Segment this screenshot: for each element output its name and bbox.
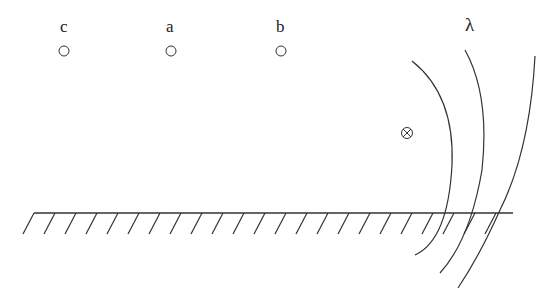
label-b: b xyxy=(276,17,285,36)
label-c: c xyxy=(60,17,68,36)
point-b-icon xyxy=(276,46,286,56)
point-c-icon xyxy=(59,46,69,56)
diagram-svg: c a b λ xyxy=(0,0,557,301)
point-a-icon xyxy=(166,46,176,56)
label-a: a xyxy=(166,17,174,36)
wavefront-1 xyxy=(412,61,452,255)
wavelength-label: λ xyxy=(465,14,475,35)
ground-hatching xyxy=(23,213,496,234)
wavefront-2 xyxy=(440,50,484,273)
source-icon xyxy=(402,128,413,139)
diagram-canvas: c a b λ xyxy=(0,0,557,301)
wavefront-3 xyxy=(458,56,535,288)
